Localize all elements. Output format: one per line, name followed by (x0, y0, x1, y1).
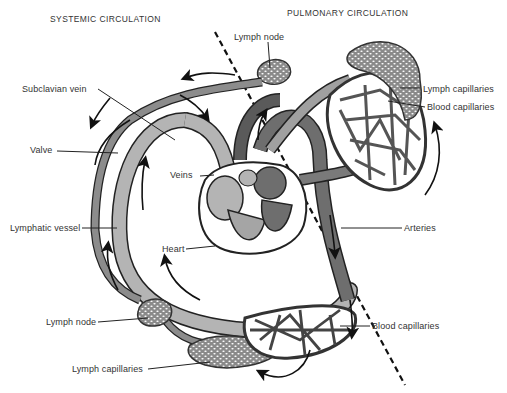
heart (199, 162, 306, 254)
label-lymph-capillaries-right: Lymph capillaries (423, 84, 494, 94)
label-lymph-node-top: Lymph node (234, 32, 284, 42)
label-arteries: Arteries (404, 223, 436, 233)
lymph-node-bottom-shape (138, 299, 172, 326)
circulation-diagram (0, 0, 507, 393)
systemic-blood-capillaries (244, 306, 355, 358)
label-subclavian-vein: Subclavian vein (22, 84, 87, 94)
label-lymph-node-bottom: Lymph node (46, 317, 96, 327)
label-heart: Heart (162, 244, 185, 254)
label-blood-capillaries-right: Blood capillaries (427, 102, 494, 112)
lymph-node-top-shape (258, 60, 291, 85)
header-pulmonary-circulation: PULMONARY CIRCULATION (287, 8, 408, 18)
label-blood-capillaries-bottom: Blood capillaries (372, 321, 439, 331)
label-valve: Valve (30, 145, 52, 155)
label-lymph-capillaries-bottom: Lymph capillaries (72, 364, 143, 374)
header-systemic-circulation: SYSTEMIC CIRCULATION (50, 14, 161, 24)
label-veins: Veins (170, 170, 193, 180)
label-lymphatic-vessel: Lymphatic vessel (10, 223, 80, 233)
